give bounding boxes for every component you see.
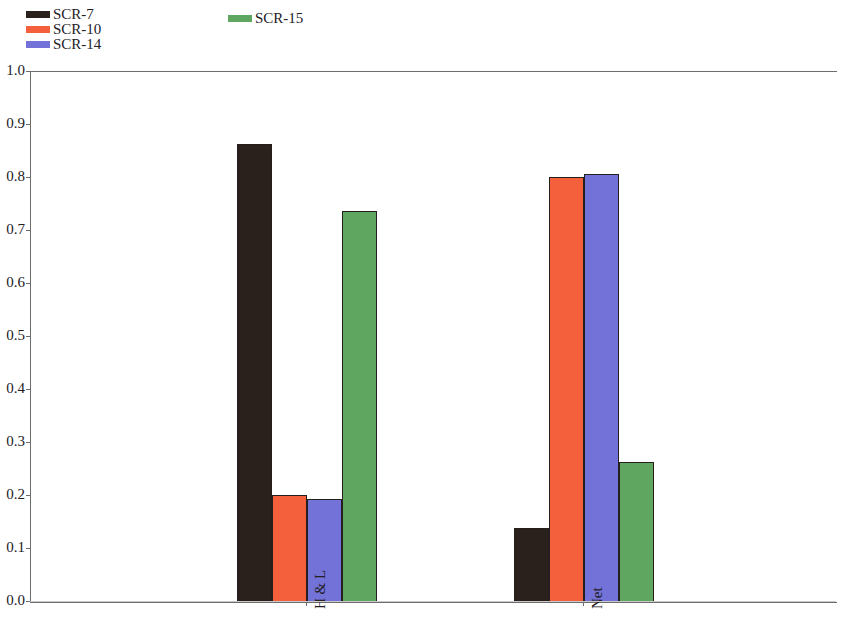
- bar-scr-15-h-l[interactable]: [342, 211, 377, 602]
- y-tick-label: 0.4: [0, 381, 25, 396]
- plot-area: [30, 71, 837, 603]
- y-tick-label: 1.0: [0, 63, 25, 78]
- bar-scr-10-net[interactable]: [549, 177, 584, 602]
- y-tick-label: 0.7: [0, 222, 25, 237]
- y-tick-label: 0.6: [0, 275, 25, 290]
- legend-item-scr-10[interactable]: SCR-10: [26, 22, 101, 37]
- legend-label-scr-10: SCR-10: [53, 22, 101, 37]
- legend-column-left: SCR-7 SCR-10 SCR-14: [26, 7, 101, 52]
- legend-item-scr-7[interactable]: SCR-7: [26, 7, 101, 22]
- legend-column-right: SCR-15: [228, 11, 303, 26]
- legend-item-scr-15[interactable]: SCR-15: [228, 11, 303, 26]
- y-tick-label: 0.9: [0, 116, 25, 131]
- bar-chart-figure: SCR-7 SCR-10 SCR-14 SCR-15 0.00.10.20.30…: [0, 0, 844, 643]
- x-tick-label: Net: [590, 587, 605, 609]
- legend-label-scr-7: SCR-7: [53, 7, 94, 22]
- bar-scr-7-h-l[interactable]: [237, 144, 272, 602]
- bar-scr-14-net[interactable]: [584, 174, 619, 602]
- bar-scr-15-net[interactable]: [619, 462, 654, 602]
- y-tick-label: 0.2: [0, 487, 25, 502]
- legend-swatch-scr-14: [26, 41, 50, 48]
- y-tick-label: 0.0: [0, 593, 25, 608]
- legend-item-scr-14[interactable]: SCR-14: [26, 37, 101, 52]
- legend-swatch-scr-7: [26, 11, 50, 18]
- y-tick-label: 0.3: [0, 434, 25, 449]
- bar-scr-10-h-l[interactable]: [272, 495, 307, 602]
- axis-baseline: [30, 601, 836, 602]
- legend-swatch-scr-15: [228, 15, 252, 22]
- y-tick-label: 0.1: [0, 540, 25, 555]
- x-tick-label: H & L: [313, 570, 328, 609]
- y-tick-label: 0.8: [0, 169, 25, 184]
- bar-scr-7-net[interactable]: [514, 528, 549, 602]
- legend-swatch-scr-10: [26, 26, 50, 33]
- chart-legend: SCR-7 SCR-10 SCR-14 SCR-15: [0, 0, 844, 62]
- plot-inner: [31, 72, 837, 602]
- y-tick-label: 0.5: [0, 328, 25, 343]
- legend-label-scr-15: SCR-15: [255, 11, 303, 26]
- legend-label-scr-14: SCR-14: [53, 37, 101, 52]
